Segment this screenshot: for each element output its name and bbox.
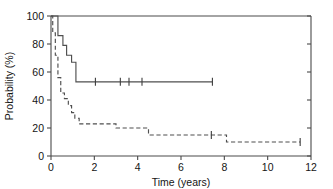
y-tick-label-60: 60 <box>32 66 44 78</box>
x-tick-label-4: 4 <box>135 161 141 173</box>
y-axis-tick-labels: 020406080100 <box>26 10 44 162</box>
x-tick-label-2: 2 <box>91 161 97 173</box>
x-tick-label-0: 0 <box>48 161 54 173</box>
y-axis-title: Probability (%) <box>3 52 15 120</box>
x-tick-label-6: 6 <box>178 161 184 173</box>
curve-solid-curve <box>51 16 212 82</box>
axis-frame <box>51 16 311 156</box>
x-tick-label-10: 10 <box>262 161 274 173</box>
kaplan-meier-plot: 020406080100 024681012 Time (years) Prob… <box>0 0 333 189</box>
y-tick-label-80: 80 <box>32 38 44 50</box>
curve-dashed-curve <box>51 16 300 142</box>
x-axis-ticks <box>51 156 311 160</box>
y-tick-label-20: 20 <box>32 122 44 134</box>
y-axis-ticks-right <box>307 16 311 156</box>
survival-chart-figure: 020406080100 024681012 Time (years) Prob… <box>0 0 333 189</box>
x-tick-label-8: 8 <box>221 161 227 173</box>
x-axis-title: Time (years) <box>152 176 211 188</box>
y-tick-label-0: 0 <box>38 150 44 162</box>
data-series-group <box>51 16 300 142</box>
y-axis-ticks <box>47 16 51 156</box>
x-axis-tick-labels: 024681012 <box>48 161 317 173</box>
censoring-marks-group <box>95 78 300 146</box>
y-tick-label-40: 40 <box>32 94 44 106</box>
y-tick-label-100: 100 <box>26 10 44 22</box>
x-tick-label-12: 12 <box>305 161 317 173</box>
